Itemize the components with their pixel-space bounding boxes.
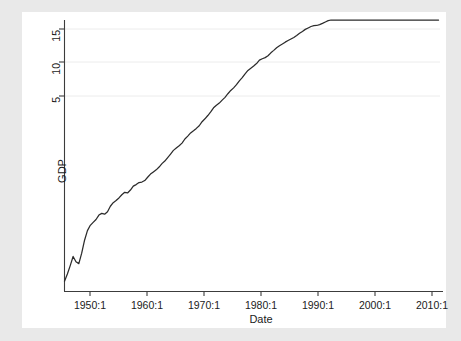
x-tick-label-1950: 1950:1 [63,299,117,311]
y-tick-label-5: 5 [50,97,62,113]
gdp-line-chart [0,0,461,341]
x-tick-label-1970: 1970:1 [177,299,231,311]
x-tick-label-1980: 1980:1 [234,299,288,311]
x-axis-title: Date [216,313,306,325]
y-tick-label-10: 10 [50,63,62,79]
x-tick-label-1990: 1990:1 [291,299,345,311]
x-tick-label-2000: 2000:1 [348,299,402,311]
gridlines [64,29,440,96]
y-axis-title: GDP [56,156,68,186]
x-tick-label-1960: 1960:1 [120,299,174,311]
y-tick-label-15: 15 [50,30,62,46]
x-tick-label-2010: 2010:1 [405,299,459,311]
gdp-series-line [65,20,439,281]
axis-lines [64,20,443,292]
chart-screenshot: 15 10 5 GDP 1950:1 1960:1 1970:1 1980:1 … [0,0,461,341]
